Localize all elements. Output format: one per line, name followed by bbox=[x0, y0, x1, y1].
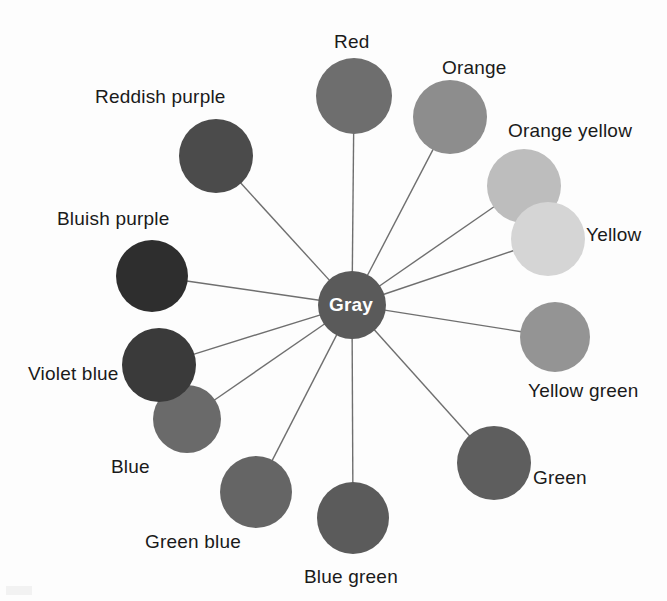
spoke-line bbox=[352, 133, 353, 272]
hue-circle[interactable] bbox=[520, 302, 590, 372]
hue-circle[interactable] bbox=[220, 456, 292, 528]
spoke-line bbox=[187, 281, 320, 300]
spoke-line bbox=[193, 315, 320, 355]
hue-label: Violet blue bbox=[28, 364, 119, 383]
spoke-line bbox=[374, 330, 470, 437]
spoke-line bbox=[240, 183, 329, 281]
hue-circle[interactable] bbox=[179, 119, 253, 193]
hue-circle[interactable] bbox=[122, 328, 196, 402]
spoke-line bbox=[385, 310, 522, 332]
hue-label: Blue green bbox=[304, 567, 398, 586]
hue-label: Orange bbox=[442, 58, 507, 77]
page-corner-mark bbox=[6, 586, 32, 595]
spoke-line bbox=[383, 250, 514, 294]
hue-label: Green blue bbox=[145, 532, 241, 551]
spoke-line bbox=[367, 149, 433, 276]
hue-circle[interactable] bbox=[413, 80, 487, 154]
hue-circle[interactable] bbox=[457, 426, 531, 500]
color-wheel-figure: RedOrangeOrange yellowYellowYellow green… bbox=[0, 0, 667, 601]
hue-label: Red bbox=[334, 32, 369, 51]
center-circle-label: Gray bbox=[329, 295, 373, 314]
hue-label: Yellow bbox=[586, 225, 641, 244]
hue-label: Bluish purple bbox=[57, 209, 169, 228]
hue-circle[interactable] bbox=[316, 58, 392, 134]
hue-label: Orange yellow bbox=[508, 121, 632, 140]
hue-circle[interactable] bbox=[116, 240, 188, 312]
hue-circle[interactable] bbox=[511, 202, 585, 276]
hue-label: Blue bbox=[111, 457, 150, 476]
hue-label: Reddish purple bbox=[95, 87, 226, 106]
spoke-line bbox=[352, 338, 353, 483]
hue-label: Green bbox=[533, 468, 587, 487]
hue-label: Yellow green bbox=[528, 381, 639, 400]
hue-circle[interactable] bbox=[317, 482, 389, 554]
